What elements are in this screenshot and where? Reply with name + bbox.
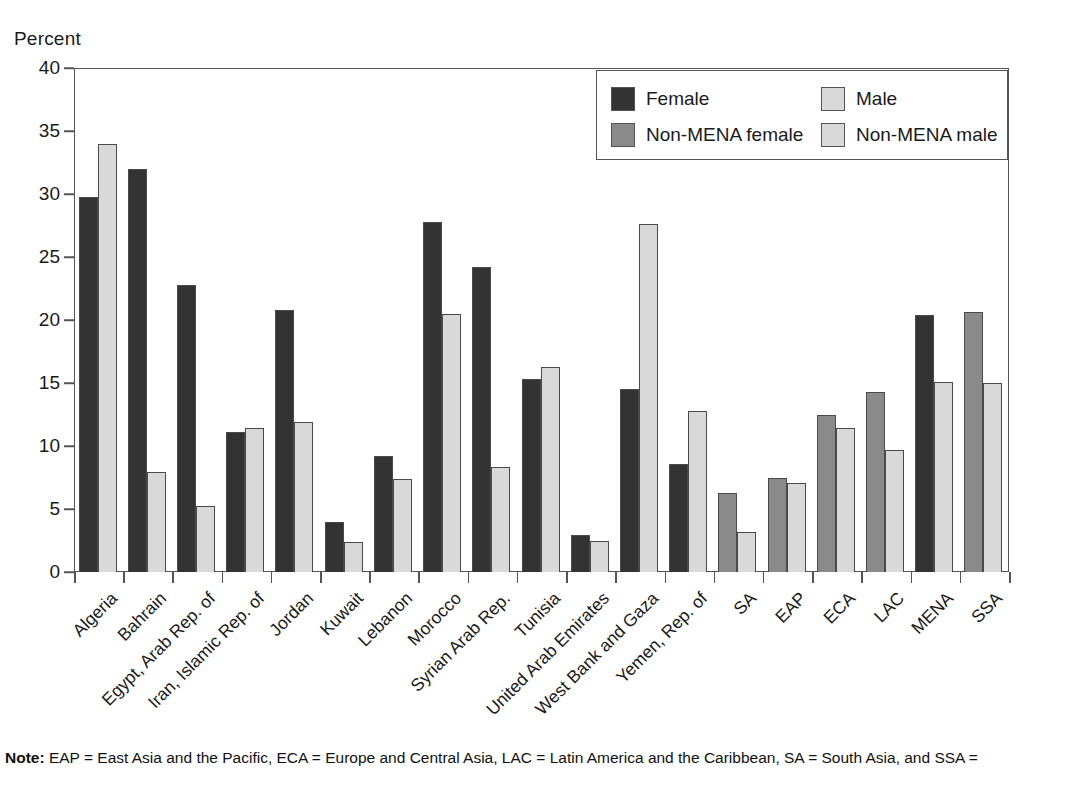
bar-female [472, 267, 491, 572]
x-tick-mark [911, 572, 913, 583]
bar-female [226, 432, 245, 572]
bar-female [522, 379, 541, 572]
x-tick-mark [74, 572, 76, 583]
legend-swatch-non-mena-male [821, 123, 845, 147]
note-prefix: Note: [5, 749, 45, 766]
bar-non-mena-male [983, 383, 1002, 572]
bar-female [275, 310, 294, 572]
y-tick-label: 30 [14, 183, 60, 205]
bar-male [491, 467, 510, 572]
x-tick-mark [566, 572, 568, 583]
bar-non-mena-female [768, 478, 787, 573]
bar-male [442, 314, 461, 572]
bar-female [79, 197, 98, 572]
x-tick-mark [222, 572, 224, 583]
bar-non-mena-male [737, 532, 756, 572]
legend-swatch-male [821, 87, 845, 111]
x-tick-mark [468, 572, 470, 583]
bar-female [620, 389, 639, 572]
y-tick-label: 15 [14, 372, 60, 394]
x-tick-mark [960, 572, 962, 583]
bar-group [177, 68, 215, 572]
x-tick-mark [320, 572, 322, 583]
legend-label-female: Female [646, 88, 709, 110]
y-tick-mark [64, 508, 74, 510]
bar-male [196, 506, 215, 572]
bar-male [393, 479, 412, 572]
bar-female [423, 222, 442, 572]
x-tick-mark [517, 572, 519, 583]
bar-group [128, 68, 166, 572]
bar-male [294, 422, 313, 572]
bar-non-mena-female [964, 312, 983, 572]
bar-male [245, 428, 264, 572]
bar-male [98, 144, 117, 572]
y-tick-mark [64, 256, 74, 258]
y-tick-mark [64, 445, 74, 447]
x-tick-mark [123, 572, 125, 583]
x-tick-mark [172, 572, 174, 583]
legend-row: Non-MENA female Non-MENA male [611, 117, 1007, 153]
bar-male [147, 472, 166, 572]
y-tick-mark [64, 571, 74, 573]
bar-female [571, 535, 590, 572]
x-tick-mark [615, 572, 617, 583]
y-tick-label: 35 [14, 120, 60, 142]
y-tick-label: 10 [14, 435, 60, 457]
bar-group [522, 68, 560, 572]
bar-non-mena-female [718, 493, 737, 572]
figure: Percent 0510152025303540 AlgeriaBahrainE… [0, 0, 1071, 791]
legend-item-non-mena-male: Non-MENA male [821, 123, 998, 147]
bar-group [374, 68, 412, 572]
legend-item-male: Male [821, 87, 897, 111]
figure-note: Note: EAP = East Asia and the Pacific, E… [5, 748, 1067, 769]
chart-legend: Female Male Non-MENA female Non-MENA mal… [596, 70, 1008, 160]
legend-label-non-mena-female: Non-MENA female [646, 124, 803, 146]
bar-non-mena-female [817, 415, 836, 573]
legend-item-non-mena-female: Non-MENA female [611, 123, 821, 147]
y-axis-title: Percent [14, 28, 81, 50]
bar-non-mena-male [885, 450, 904, 572]
bar-female [177, 285, 196, 572]
legend-swatch-non-mena-female [611, 123, 635, 147]
x-tick-mark [1009, 572, 1011, 583]
y-tick-mark [64, 130, 74, 132]
y-tick-label: 40 [14, 57, 60, 79]
y-tick-label: 0 [14, 561, 60, 583]
y-tick-mark [64, 382, 74, 384]
bar-group [275, 68, 313, 572]
y-tick-label: 5 [14, 498, 60, 520]
bar-male [344, 542, 363, 572]
bar-female [374, 456, 393, 572]
bar-female [325, 522, 344, 572]
y-tick-mark [64, 319, 74, 321]
y-tick-label: 20 [14, 309, 60, 331]
bar-male [934, 382, 953, 572]
x-tick-mark [763, 572, 765, 583]
x-tick-mark [369, 572, 371, 583]
legend-label-male: Male [856, 88, 897, 110]
y-tick-mark [64, 193, 74, 195]
bar-female [128, 169, 147, 572]
x-tick-mark [861, 572, 863, 583]
bar-group [79, 68, 117, 572]
note-text: EAP = East Asia and the Pacific, ECA = E… [45, 749, 978, 766]
bar-group [472, 68, 510, 572]
bar-non-mena-female [866, 392, 885, 572]
legend-row: Female Male [611, 81, 1007, 117]
bar-female [915, 315, 934, 572]
legend-item-female: Female [611, 87, 821, 111]
x-tick-mark [665, 572, 667, 583]
bar-female [669, 464, 688, 572]
bar-male [541, 367, 560, 572]
bar-male [590, 541, 609, 573]
y-tick-label: 25 [14, 246, 60, 268]
bar-male [688, 411, 707, 572]
x-tick-mark [271, 572, 273, 583]
x-tick-mark [812, 572, 814, 583]
legend-label-non-mena-male: Non-MENA male [856, 124, 998, 146]
x-tick-mark [418, 572, 420, 583]
bar-group [423, 68, 461, 572]
bar-group [325, 68, 363, 572]
bar-group [226, 68, 264, 572]
